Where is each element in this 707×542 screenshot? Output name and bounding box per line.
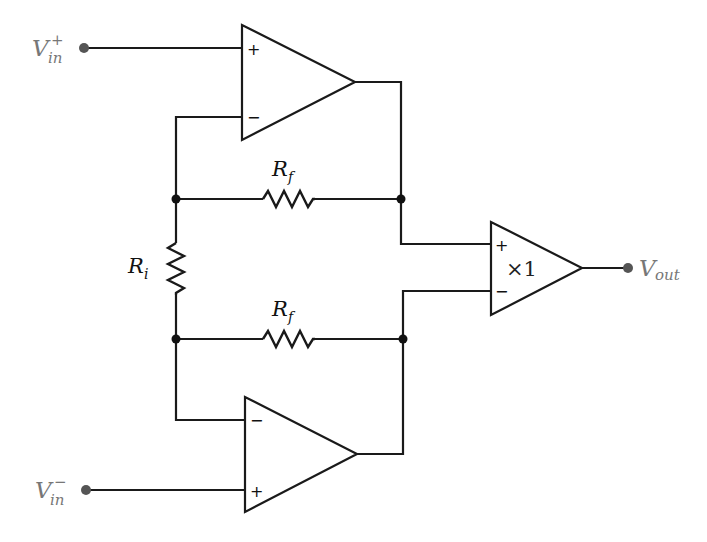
- opamp-bottom-minus-sign: −: [250, 411, 263, 430]
- wire-top-output: [355, 82, 491, 244]
- label-vin-minus-sup: −: [54, 473, 67, 491]
- label-vout-sub: out: [655, 266, 681, 284]
- label-ri-base: R: [127, 254, 144, 278]
- resistor-rf-top: [263, 191, 315, 207]
- label-rf-top: R f: [271, 157, 296, 185]
- label-vin-minus: V − in: [35, 473, 67, 509]
- label-vout: V out: [639, 255, 681, 284]
- label-rf-top-base: R: [271, 157, 288, 181]
- label-rf-bottom-sub: f: [287, 309, 296, 325]
- label-rf-top-sub: f: [287, 169, 296, 185]
- junction-bottom-right: [399, 335, 408, 344]
- terminal-vout: [623, 263, 633, 273]
- label-vin-plus-sub: in: [48, 49, 62, 67]
- wire-top-minus: [176, 117, 242, 199]
- circuit-diagram: + − − + + − ×1 R f R f R i V + in V − in…: [0, 0, 707, 542]
- resistor-ri: [168, 243, 184, 295]
- junction-bottom-left: [172, 335, 181, 344]
- junction-top-right: [397, 195, 406, 204]
- opamp-buffer-minus-sign: −: [495, 282, 508, 301]
- label-vin-minus-sub: in: [50, 491, 64, 509]
- opamp-top-minus-sign: −: [247, 108, 260, 127]
- terminal-vin-minus: [81, 485, 91, 495]
- label-rf-bottom-base: R: [271, 297, 288, 321]
- label-vin-plus-sup: +: [51, 31, 64, 49]
- junction-top-left: [172, 195, 181, 204]
- label-vin-plus: V + in: [32, 31, 64, 67]
- opamp-top-plus-sign: +: [247, 40, 260, 59]
- buffer-gain-label: ×1: [506, 257, 537, 281]
- label-ri: R i: [127, 254, 148, 282]
- opamp-buffer-plus-sign: +: [495, 236, 508, 255]
- label-ri-sub: i: [144, 266, 148, 282]
- terminal-vin-plus: [79, 43, 89, 53]
- label-rf-bottom: R f: [271, 297, 296, 325]
- resistor-rf-bottom: [263, 331, 315, 347]
- opamp-bottom-plus-sign: +: [250, 482, 263, 501]
- wire-bottom-minus: [176, 339, 245, 420]
- wire-bottom-output: [357, 291, 491, 454]
